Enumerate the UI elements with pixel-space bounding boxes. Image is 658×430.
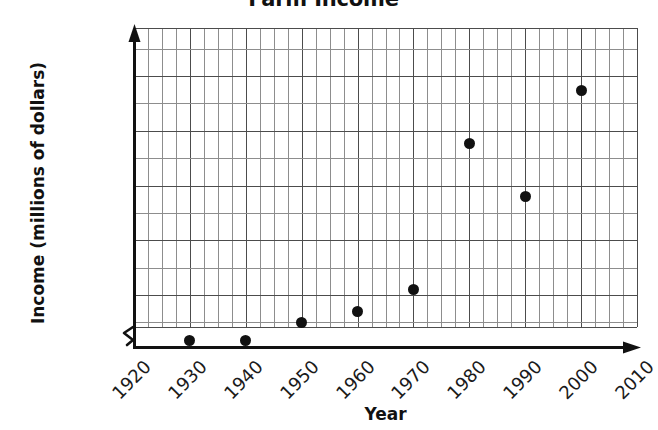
x-tick-label-text: 1950 bbox=[275, 356, 322, 403]
x-tick-label-text: 1930 bbox=[163, 356, 210, 403]
x-axis-title: Year bbox=[134, 404, 637, 424]
x-tick-label: 1990 bbox=[531, 324, 578, 371]
x-tick-label-text: 1940 bbox=[219, 356, 266, 403]
x-tick-label-text: 1990 bbox=[499, 356, 546, 403]
x-tick-label-text: 1960 bbox=[331, 356, 378, 403]
x-tick-label: 1980 bbox=[475, 324, 522, 371]
x-tick-label: 1930 bbox=[196, 324, 243, 371]
x-tick-label: 2010 bbox=[643, 324, 658, 371]
x-tick-label-text: 1920 bbox=[108, 356, 155, 403]
x-tick-label: 1920 bbox=[140, 324, 187, 371]
x-tick-label-text: 1970 bbox=[387, 356, 434, 403]
x-tick-label: 1940 bbox=[252, 324, 299, 371]
x-tick-label: 1950 bbox=[308, 324, 355, 371]
x-tick-label-text: 2000 bbox=[555, 356, 602, 403]
x-tick-label: 1960 bbox=[364, 324, 411, 371]
x-tick-label: 2000 bbox=[587, 324, 634, 371]
x-tick-label-text: 2010 bbox=[611, 356, 658, 403]
x-tick-label: 1970 bbox=[419, 324, 466, 371]
x-tick-label-text: 1980 bbox=[443, 356, 490, 403]
